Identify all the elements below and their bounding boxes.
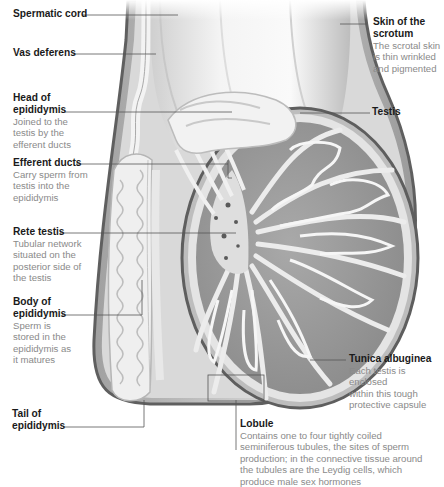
- label-title: Rete testis: [13, 226, 123, 238]
- label-description: The scrotal skin is thin wrinkled and pi…: [373, 40, 443, 74]
- label-tunica-albuginea: Tunica albuginea Each testis is enclosed…: [349, 353, 444, 411]
- label-title: Tunica albuginea: [349, 353, 444, 365]
- label-efferent-ducts: Efferent ducts Carry sperm from testis i…: [13, 157, 123, 203]
- label-title: Body of epididymis: [13, 296, 123, 320]
- label-vas-deferens: Vas deferens: [13, 47, 76, 59]
- label-title: Vas deferens: [13, 47, 76, 59]
- label-testis: Testis: [372, 106, 401, 118]
- label-description: Each testis is enclosed within this toug…: [349, 365, 444, 411]
- label-title: Tail of epididymis: [12, 408, 122, 432]
- label-title: Lobule: [240, 418, 440, 430]
- label-title: Skin of the scrotum: [373, 16, 443, 40]
- label-skin-of-scrotum: Skin of the scrotum The scrotal skin is …: [373, 16, 443, 74]
- label-title: Head of epididymis: [13, 92, 123, 116]
- label-description: Sperm is stored in the epididymis as it …: [13, 320, 123, 366]
- label-lobule: Lobule Contains one to four tightly coil…: [240, 418, 440, 487]
- label-description: Carry sperm from testis into the epididy…: [13, 169, 123, 203]
- label-tail-of-epididymis: Tail of epididymis: [12, 408, 122, 432]
- label-title: Spermatic cord: [13, 8, 87, 20]
- label-description: Contains one to four tightly coiled semi…: [240, 430, 440, 487]
- label-rete-testis: Rete testis Tubular network situated on …: [13, 226, 123, 284]
- label-head-of-epididymis: Head of epididymis Joined to the testis …: [13, 92, 123, 150]
- label-body-of-epididymis: Body of epididymis Sperm is stored in th…: [13, 296, 123, 366]
- label-title: Testis: [372, 106, 401, 118]
- label-title: Efferent ducts: [13, 157, 123, 169]
- label-description: Tubular network situated on the posterio…: [13, 238, 123, 284]
- label-spermatic-cord: Spermatic cord: [13, 8, 87, 20]
- label-description: Joined to the testis by the efferent duc…: [13, 116, 123, 150]
